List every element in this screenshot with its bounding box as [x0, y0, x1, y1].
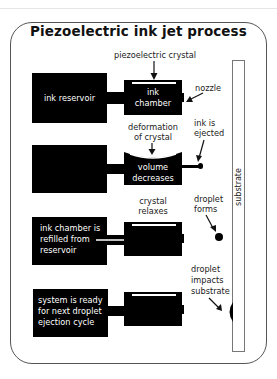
arrow-ejected-icon	[196, 140, 208, 164]
droplet	[215, 233, 223, 241]
piezo-crystal	[132, 224, 176, 226]
label-impacts-line3: substrate	[191, 286, 230, 296]
nozzle	[181, 234, 184, 243]
label-droplet-forms-line2: forms	[194, 204, 217, 214]
reservoir-label: ink reservoir	[32, 93, 107, 104]
label-piezoelectric-crystal: piezoelectric crystal	[100, 50, 210, 60]
connector-pipe	[106, 164, 126, 174]
label-deformation-line1: deformation	[118, 122, 188, 132]
ink-reservoir-1: ink reservoir	[32, 73, 107, 123]
reservoir-label-line2: for next droplet	[38, 306, 102, 317]
label-ink-ejected-line1: ink is	[194, 118, 215, 128]
arrow-down-icon	[150, 61, 158, 81]
nozzle	[181, 93, 184, 102]
ink-chamber-2: volume decreases	[124, 162, 182, 184]
ink-chamber-3	[124, 222, 182, 256]
arrow-nozzle-icon	[185, 92, 205, 104]
ink-reservoir-4: system is ready for next droplet ejectio…	[33, 289, 108, 337]
chamber-label-line2: chamber	[124, 98, 182, 109]
ejected-ink-tip	[198, 163, 203, 169]
ink-chamber-4	[124, 292, 182, 326]
reservoir-label-line1: ink chamber is	[40, 223, 100, 234]
piezo-crystal	[132, 294, 176, 296]
label-deformation-line2: of crystal	[118, 132, 188, 142]
reservoir-label-line3: ejection cycle	[38, 317, 94, 328]
label-droplet-forms-line1: droplet	[194, 194, 223, 204]
label-impacts-line1: droplet	[191, 264, 220, 274]
nozzle	[181, 305, 184, 314]
arrow-impact-icon	[208, 297, 224, 313]
arrow-droplet-icon	[205, 215, 219, 233]
label-crystal-relaxes-line2: relaxes	[118, 206, 188, 216]
diagram-title: Piezoelectric ink jet process	[0, 23, 277, 39]
connector-pipe	[106, 92, 126, 104]
ink-chamber-1: ink chamber	[124, 80, 182, 115]
top-divider	[0, 8, 277, 9]
label-impacts-line2: impacts	[191, 275, 223, 285]
ink-reservoir-2	[32, 145, 107, 193]
chamber-label-line1: volume	[124, 162, 182, 173]
piezo-crystal	[132, 82, 176, 84]
substrate-label: substrate	[234, 163, 244, 211]
label-ink-ejected-line2: ejected	[194, 128, 224, 138]
droplet-splat	[226, 302, 234, 322]
chamber-label-line2: decreases	[124, 173, 182, 184]
reservoir-label-line3: reservoir	[40, 245, 76, 256]
reservoir-label-line1: system is ready	[38, 295, 103, 306]
chamber-label-line1: ink	[124, 87, 182, 98]
reservoir-label-line2: refilled from	[40, 234, 90, 245]
label-crystal-relaxes-line1: crystal	[118, 196, 188, 206]
